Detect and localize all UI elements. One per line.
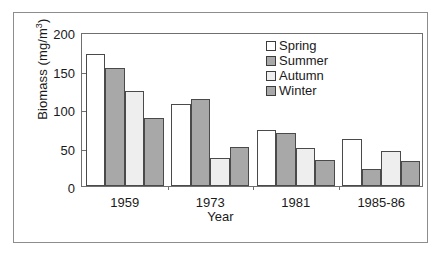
bar-summer-1981 bbox=[276, 133, 296, 186]
bar-autumn-1973 bbox=[210, 158, 230, 186]
bar-autumn-1985-86 bbox=[381, 151, 401, 186]
bar-winter-1985-86 bbox=[401, 161, 421, 186]
y-axis-title-exponent: 3 bbox=[34, 23, 44, 28]
legend-swatch-icon bbox=[266, 41, 276, 51]
bar-summer-1985-86 bbox=[362, 169, 382, 186]
y-axis-title-tail: ) bbox=[35, 19, 50, 23]
legend-item-label: Summer bbox=[279, 54, 328, 67]
x-tick-mark bbox=[168, 186, 169, 190]
x-axis-title: Year bbox=[14, 209, 427, 224]
bar-winter-1973 bbox=[230, 147, 250, 186]
bar-autumn-1959 bbox=[125, 91, 145, 186]
bar-spring-1985-86 bbox=[342, 139, 362, 186]
legend-item-winter: Winter bbox=[266, 84, 328, 97]
y-axis-title-text: Biomass (mg/m bbox=[35, 28, 50, 120]
x-tick-mark bbox=[253, 186, 254, 190]
x-tick-label: 1985-86 bbox=[357, 195, 405, 210]
x-tick-label: 1981 bbox=[281, 195, 310, 210]
bar-spring-1959 bbox=[86, 54, 106, 186]
bar-winter-1959 bbox=[144, 118, 164, 186]
chart-figure: Biomass (mg/m3) 050100150200 19591973198… bbox=[13, 12, 428, 243]
legend-item-label: Autumn bbox=[279, 69, 324, 82]
x-tick-label: 1959 bbox=[110, 195, 139, 210]
legend-swatch-icon bbox=[266, 71, 276, 81]
bar-autumn-1981 bbox=[296, 148, 316, 186]
legend-item-label: Spring bbox=[279, 39, 317, 52]
plot-area: 050100150200 1959197319811985-86 bbox=[81, 33, 423, 187]
y-tick-label: 50 bbox=[61, 142, 75, 157]
legend-item-label: Winter bbox=[279, 84, 317, 97]
legend-swatch-icon bbox=[266, 86, 276, 96]
x-tick-mark bbox=[339, 186, 340, 190]
bar-winter-1981 bbox=[315, 160, 335, 186]
bar-spring-1981 bbox=[257, 130, 277, 186]
bar-spring-1973 bbox=[171, 104, 191, 186]
y-tick-label: 200 bbox=[53, 27, 75, 42]
bar-summer-1959 bbox=[105, 68, 125, 186]
legend-item-autumn: Autumn bbox=[266, 69, 328, 82]
y-tick-label: 100 bbox=[53, 104, 75, 119]
y-tick-label: 0 bbox=[68, 181, 75, 196]
x-tick-label: 1973 bbox=[196, 195, 225, 210]
chart-legend: SpringSummerAutumnWinter bbox=[266, 39, 328, 97]
bar-summer-1973 bbox=[191, 99, 211, 186]
y-axis-title: Biomass (mg/m3) bbox=[34, 0, 50, 149]
legend-item-spring: Spring bbox=[266, 39, 328, 52]
legend-swatch-icon bbox=[266, 56, 276, 66]
y-tick-label: 150 bbox=[53, 65, 75, 80]
legend-item-summer: Summer bbox=[266, 54, 328, 67]
